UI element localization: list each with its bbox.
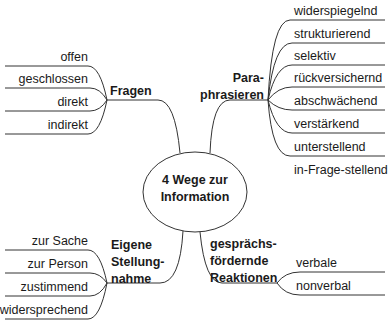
leaf-nonverbal: nonverbal: [296, 279, 351, 293]
center-label-2: Information: [143, 189, 247, 206]
branch-stellungnahme: Eigene Stellung- nahme: [111, 237, 164, 288]
branch-label-3: Reaktionen: [210, 270, 277, 287]
center-node: 4 Wege zur Information: [143, 172, 247, 206]
leaf-in-frage-stellend: in-Frage-stellend: [294, 163, 388, 177]
branch-label-2: Stellung-: [111, 254, 164, 271]
leaf-direkt: direkt: [57, 95, 88, 109]
leaf-verstaerkend: verstärkend: [294, 117, 359, 131]
leaf-offen: offen: [60, 50, 88, 64]
leaf-zur-sache: zur Sache: [32, 234, 88, 248]
leaf-selektiv: selektiv: [294, 49, 336, 63]
leaf-zur-person: zur Person: [28, 257, 88, 271]
leaf-unterstellend: unterstellend: [294, 140, 366, 154]
leaf-strukturierend: strukturierend: [294, 27, 370, 41]
leaf-rueckversichernd: rückversichernd: [294, 71, 382, 85]
leaf-abschwaechend: abschwächend: [294, 94, 377, 108]
leaf-indirekt: indirekt: [48, 118, 88, 132]
leaf-geschlossen: geschlossen: [19, 72, 89, 86]
center-label-1: 4 Wege zur: [143, 172, 247, 189]
branch-label-3: nahme: [111, 271, 164, 288]
branch-paraphrasieren: Para- phrasieren: [200, 70, 264, 104]
leaf-widerspiegelnd: widerspiegelnd: [294, 4, 377, 18]
leaf-verbale: verbale: [296, 256, 337, 270]
leaf-zustimmend: zustimmend: [21, 280, 88, 294]
branch-label-2: fördernde: [210, 253, 277, 270]
branch-fragen: Fragen: [110, 83, 152, 100]
branch-label-1: Eigene: [111, 237, 164, 254]
leaf-widersprechend: widersprechend: [0, 303, 88, 317]
branch-reaktionen: gesprächs- fördernde Reaktionen: [210, 236, 277, 287]
branch-label-1: Para-: [200, 70, 264, 87]
branch-label-2: phrasieren: [200, 87, 264, 104]
branch-label-1: gesprächs-: [210, 236, 277, 253]
